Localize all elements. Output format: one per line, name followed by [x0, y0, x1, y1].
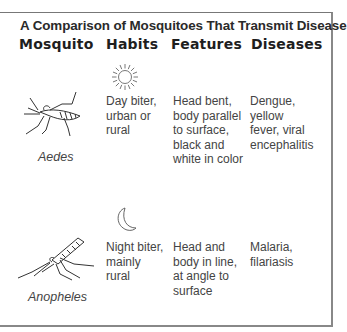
features-cell: Head and body in line, at angle to surfa… [173, 240, 237, 298]
sun-ray [128, 65, 130, 69]
column-header-mosquito: Mosquito [19, 36, 94, 52]
column-header-features: Features [171, 36, 242, 52]
aedes-mosquito-icon [20, 90, 90, 140]
mosquito-name: Aedes [38, 150, 73, 164]
table-title: A Comparison of Mosquitoes That Transmit… [20, 18, 347, 33]
diseases-cell: Dengue, yellow fever, viral encephalitis [250, 94, 313, 152]
column-header-diseases: Diseases [251, 36, 322, 52]
sun-ray [120, 65, 122, 69]
habits-cell: Day biter, urban or rural [106, 94, 157, 138]
sun-ray [116, 83, 119, 86]
sun-icon [111, 63, 139, 91]
features-cell: Head bent, body parallel to surface, bla… [173, 94, 243, 167]
sun-ray [120, 85, 122, 89]
sun-ray [131, 68, 134, 71]
sun-ray [128, 85, 130, 89]
moon-icon [113, 206, 137, 234]
sun-ray [133, 80, 137, 82]
column-header-habits: Habits [106, 36, 158, 52]
anopheles-mosquito-icon [14, 230, 99, 280]
sun-ray [131, 83, 134, 86]
habits-cell: Night biter, mainly rural [106, 240, 163, 284]
sun-ray [133, 72, 137, 74]
sun-ray [113, 72, 117, 74]
diseases-cell: Malaria, filariasis [250, 240, 293, 269]
sun-ray [116, 68, 119, 71]
sun-ray [113, 80, 117, 82]
mosquito-name: Anopheles [28, 290, 87, 304]
